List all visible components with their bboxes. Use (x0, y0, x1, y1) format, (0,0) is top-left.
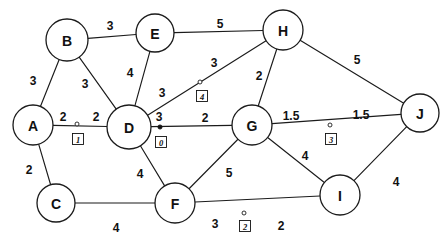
marker-point-0-filled-icon[interactable] (158, 125, 162, 129)
edge-weight-d-g-1: 2 (202, 111, 209, 125)
edge-a-b (40, 59, 59, 106)
node-label-d: D (124, 120, 134, 136)
edge-a-c (39, 144, 51, 185)
edge-f-g (189, 139, 238, 189)
node-a[interactable]: A (13, 105, 53, 145)
node-label-j: J (416, 106, 424, 122)
node-label-c: C (51, 196, 61, 212)
node-i[interactable]: I (320, 175, 360, 215)
marker-point-2-open-icon[interactable] (242, 211, 246, 215)
marker-box-label-4: 4 (199, 92, 204, 102)
edge-b-e (88, 35, 136, 39)
edge-weight-a-d-0: 2 (60, 110, 67, 124)
edge-weight-f-i-0: 3 (212, 217, 219, 231)
edge-g-i (268, 137, 325, 182)
marker-4[interactable]: 4 (197, 80, 208, 102)
graph-figure: ABCDEFGHIJ 35334332522321.51.524544324 0… (0, 0, 446, 242)
edge-weight-i-j-0: 4 (393, 175, 400, 189)
edge-weight-d-g-0: 3 (156, 110, 163, 124)
edge-weight-a-d-1: 2 (93, 110, 100, 124)
edge-weight-g-j-0: 1.5 (283, 109, 300, 123)
edge-f-i (195, 196, 320, 202)
edge-weight-e-h-0: 5 (217, 17, 224, 31)
edge-weight-b-e-0: 3 (107, 19, 114, 33)
edge-a-d (53, 125, 107, 126)
node-label-e: E (150, 26, 159, 42)
edge-weight-c-f-0: 4 (113, 221, 120, 235)
node-label-a: A (28, 118, 38, 134)
node-h[interactable]: H (263, 10, 303, 50)
edge-e-d (135, 51, 150, 105)
edge-weight-b-d-0: 3 (82, 77, 89, 91)
graph-canvas: ABCDEFGHIJ 35334332522321.51.524544324 0… (0, 0, 446, 242)
node-b[interactable]: B (46, 19, 88, 61)
edge-weight-g-j-1: 1.5 (353, 108, 370, 122)
node-label-i: I (338, 188, 342, 204)
node-e[interactable]: E (136, 14, 174, 52)
edge-h-j (300, 40, 404, 103)
node-j[interactable]: J (401, 94, 439, 132)
edge-weight-d-f-0: 4 (137, 167, 144, 181)
edge-d-h (148, 41, 266, 116)
edge-d-g (151, 125, 232, 126)
node-d[interactable]: D (107, 105, 151, 149)
edge-i-j (354, 127, 407, 181)
marker-box-label-1: 1 (76, 135, 80, 145)
marker-box-label-3: 3 (328, 135, 334, 145)
edge-weight-h-g-0: 2 (256, 69, 263, 83)
marker-0[interactable]: 0 (156, 125, 167, 148)
node-g[interactable]: G (232, 105, 272, 145)
edge-weight-g-i-0: 4 (302, 149, 309, 163)
edge-weight-a-b-0: 3 (30, 74, 37, 88)
marker-3[interactable]: 3 (326, 123, 337, 145)
edge-weight-a-c-0: 2 (26, 163, 33, 177)
edge-weight-h-j-0: 5 (354, 53, 361, 67)
edge-weight-f-i-1: 2 (278, 219, 285, 233)
marker-point-4-open-icon[interactable] (198, 80, 202, 84)
edge-d-f (140, 146, 164, 186)
marker-point-3-open-icon[interactable] (328, 123, 332, 127)
marker-box-label-2: 2 (242, 222, 248, 232)
node-label-f: F (171, 196, 180, 212)
node-f[interactable]: F (155, 183, 195, 223)
marker-2[interactable]: 2 (240, 211, 251, 232)
node-label-h: H (278, 23, 288, 39)
edge-weight-e-d-0: 4 (127, 66, 134, 80)
node-label-b: B (62, 33, 72, 49)
node-label-g: G (247, 118, 258, 134)
edge-weight-f-g-0: 5 (226, 166, 233, 180)
node-c[interactable]: C (37, 184, 75, 222)
edge-weight-d-h-1: 3 (211, 56, 218, 70)
marker-point-1-open-icon[interactable] (75, 122, 79, 126)
edge-weight-d-h-0: 3 (159, 86, 166, 100)
